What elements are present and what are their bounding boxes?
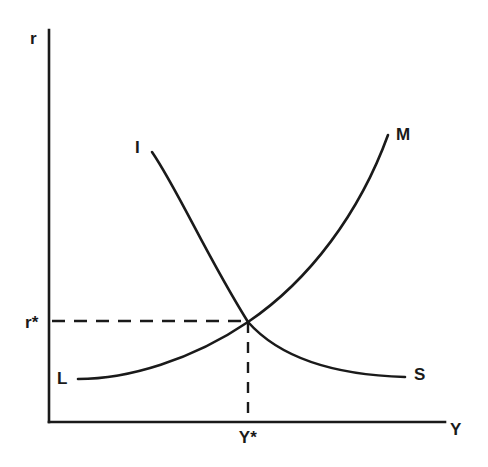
- equilibrium-output-label: Y*: [239, 428, 258, 447]
- lm-curve: [78, 135, 388, 379]
- y-axis-label: r: [30, 29, 37, 48]
- is-curve-top-label: I: [135, 138, 140, 157]
- lm-curve-bottom-label: L: [57, 369, 68, 388]
- lm-curve-top-label: M: [396, 125, 410, 144]
- is-lm-figure: r Y I M L S r* Y*: [0, 0, 488, 467]
- x-axis-label: Y: [450, 420, 462, 439]
- reference-lines-group: [52, 321, 248, 422]
- chart-canvas: r Y I M L S r* Y*: [0, 0, 488, 467]
- equilibrium-rate-label: r*: [25, 313, 39, 332]
- is-curve-bottom-label: S: [414, 365, 426, 384]
